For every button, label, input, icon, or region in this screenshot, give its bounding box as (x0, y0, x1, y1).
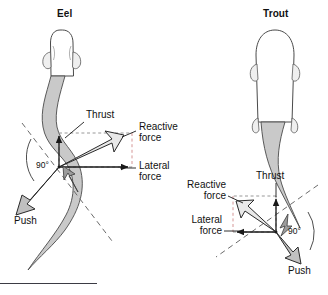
footer-divider (0, 283, 97, 284)
trout-lateral-force-label-line1: Lateral (172, 214, 222, 225)
trout-push-vector (276, 232, 301, 264)
eel-push-vector (16, 167, 59, 215)
trout-lateral-force-label-line2: force (172, 225, 222, 236)
trout-reactive-vector (236, 200, 276, 232)
eel-angle-label: 90° (36, 160, 49, 170)
trout-body (250, 30, 300, 228)
trout-angle-arc (308, 212, 314, 250)
trout-lateral-force-label: Lateral force (172, 214, 222, 236)
trout-leader-lines (224, 183, 276, 231)
eel-angle-arc (26, 139, 34, 181)
figure-canvas: Eel Thrust Reactive force Lateral force … (0, 0, 328, 295)
eel-reactive-force-label-line2: force (139, 132, 178, 143)
eel-lateral-force-label-line1: Lateral (139, 160, 170, 171)
trout-reactive-force-label-line1: Reactive (172, 179, 226, 190)
trout-angle-label: 90° (288, 226, 301, 236)
trout-tangent-line (216, 185, 318, 257)
trout-push-label: Push (288, 266, 311, 277)
eel-reactive-force-label: Reactive force (139, 121, 178, 143)
trout-thrust-label: Thrust (256, 171, 284, 182)
trout-reactive-force-label: Reactive force (172, 179, 226, 201)
trout-panel-title: Trout (263, 8, 289, 19)
eel-lateral-force-label: Lateral force (139, 160, 170, 182)
eel-thrust-label: Thrust (86, 110, 114, 121)
diagram-artwork (0, 0, 328, 295)
eel-lateral-force-label-line2: force (139, 171, 170, 182)
trout-reactive-force-label-line2: force (172, 190, 226, 201)
eel-push-label: Push (14, 216, 37, 227)
eel-body (28, 30, 82, 270)
eel-panel-title: Eel (57, 8, 72, 19)
eel-reactive-force-label-line1: Reactive (139, 121, 178, 132)
